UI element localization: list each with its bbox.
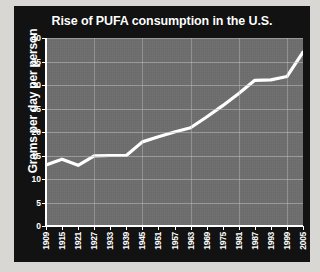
x-tick-mark	[271, 226, 272, 230]
gridline-horizontal	[46, 38, 303, 39]
x-tick-mark	[223, 226, 224, 230]
plot-area	[46, 38, 303, 226]
gridline-horizontal	[46, 156, 303, 157]
x-tick-label: 1999	[282, 232, 292, 250]
x-tick-mark	[62, 226, 63, 230]
x-tick-mark	[158, 226, 159, 230]
y-tick-label: 0	[36, 221, 41, 231]
x-tick-label: 1975	[218, 232, 228, 250]
x-tick-label: 1987	[250, 232, 260, 250]
y-axis-ticks: 0510152025303540	[14, 38, 46, 226]
x-tick-mark	[207, 226, 208, 230]
x-tick-mark	[78, 226, 79, 230]
gridline-vertical	[94, 38, 95, 226]
x-tick-mark	[46, 226, 47, 230]
y-tick-label: 40	[32, 33, 41, 43]
chart-figure: Rise of PUFA consumption in the U.S. Gra…	[14, 6, 310, 262]
x-tick-mark	[94, 226, 95, 230]
x-tick-label: 1981	[234, 232, 244, 250]
gridline-horizontal	[46, 132, 303, 133]
x-tick-label: 1927	[89, 232, 99, 250]
y-tick-label: 5	[36, 198, 41, 208]
gridline-horizontal	[46, 179, 303, 180]
x-tick-mark	[287, 226, 288, 230]
y-axis-spine	[45, 38, 47, 226]
gridline-vertical	[191, 38, 192, 226]
x-tick-label: 1909	[41, 232, 51, 250]
gridline-horizontal	[46, 85, 303, 86]
x-tick-label: 1969	[202, 232, 212, 250]
x-tick-label: 1957	[170, 232, 180, 250]
x-tick-mark	[239, 226, 240, 230]
x-tick-label: 1993	[266, 232, 276, 250]
y-tick-label: 30	[32, 80, 41, 90]
x-tick-mark	[142, 226, 143, 230]
x-tick-label: 1939	[121, 232, 131, 250]
x-tick-mark	[175, 226, 176, 230]
x-tick-mark	[126, 226, 127, 230]
gridline-horizontal	[46, 62, 303, 63]
x-tick-label: 1945	[137, 232, 147, 250]
y-tick-label: 35	[32, 57, 41, 67]
gridline-horizontal	[46, 109, 303, 110]
x-tick-mark	[110, 226, 111, 230]
gridline-vertical	[142, 38, 143, 226]
x-tick-mark	[191, 226, 192, 230]
y-tick-label: 10	[32, 174, 41, 184]
x-tick-label: 2005	[298, 232, 308, 250]
x-axis-ticks: 1909191519211927193319391945195119571963…	[46, 226, 303, 266]
x-tick-mark	[255, 226, 256, 230]
gridline-vertical	[287, 38, 288, 226]
chart-title: Rise of PUFA consumption in the U.S.	[14, 14, 310, 28]
gridline-vertical	[239, 38, 240, 226]
y-tick-label: 25	[32, 104, 41, 114]
x-tick-label: 1933	[105, 232, 115, 250]
gridline-horizontal	[46, 203, 303, 204]
y-tick-label: 20	[32, 127, 41, 137]
x-tick-label: 1963	[186, 232, 196, 250]
x-tick-mark	[303, 226, 304, 230]
y-tick-label: 15	[32, 151, 41, 161]
x-tick-label: 1951	[153, 232, 163, 250]
x-tick-label: 1915	[57, 232, 67, 250]
x-tick-label: 1921	[73, 232, 83, 250]
